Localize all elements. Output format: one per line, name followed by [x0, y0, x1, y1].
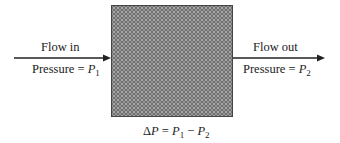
- flow-resistance-block: [111, 5, 233, 117]
- pressure-drop-equation: ΔP = P1 − P2: [143, 124, 210, 140]
- inlet-pressure-label: Pressure = P1: [32, 62, 100, 78]
- outlet-arrowhead-icon: [317, 55, 325, 62]
- inlet-label: Flow in: [41, 40, 80, 55]
- outlet-pressure-label: Pressure = P2: [243, 62, 311, 78]
- inlet-arrowhead-icon: [103, 55, 111, 62]
- outlet-label: Flow out: [253, 40, 298, 55]
